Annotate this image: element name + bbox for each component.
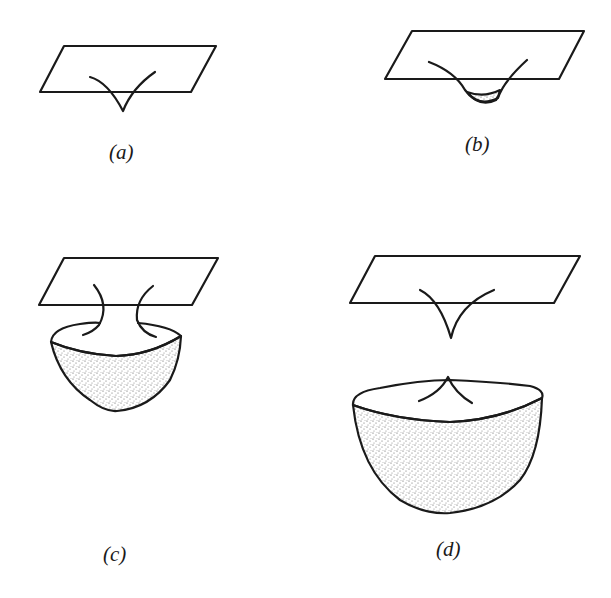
caption-c: (c)	[103, 544, 126, 565]
panel-b-diagram	[385, 31, 584, 103]
caption-d: (d)	[436, 539, 461, 560]
caption-a-text: (a)	[109, 140, 134, 164]
caption-b-text: (b)	[465, 132, 490, 156]
figure-canvas	[0, 0, 611, 598]
left-arc-c	[83, 285, 103, 335]
caption-b: (b)	[465, 134, 490, 155]
plane-a	[40, 46, 216, 92]
panel-c-diagram	[39, 258, 218, 411]
caption-a: (a)	[109, 142, 134, 163]
bowl-d	[353, 398, 542, 513]
right-arc-c	[137, 286, 156, 337]
plane-c	[39, 258, 218, 305]
plane-b	[385, 31, 584, 79]
caption-c-text: (c)	[103, 542, 126, 566]
panel-a-diagram	[40, 46, 216, 111]
plane-d	[350, 256, 580, 303]
cusp-curve-d	[420, 290, 494, 338]
bowl-c	[51, 336, 181, 411]
panel-d-diagram	[350, 256, 580, 513]
caption-d-text: (d)	[436, 537, 461, 561]
